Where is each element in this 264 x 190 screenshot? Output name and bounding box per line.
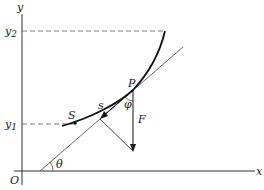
arc-length-label: s [98,99,104,112]
y2-tick-label: y2 [4,25,17,39]
phi-label: φ [124,98,132,111]
y1-tick-label: y1 [4,118,17,132]
curve [62,31,165,126]
x-axis-label: x [256,165,263,178]
point-p-label: P [127,77,136,90]
origin-label: O [10,174,19,187]
physics-diagram: y x O y2 y1 P S s F φ θ [0,0,264,190]
perpendicular-line [100,119,133,151]
point-s-label: S [68,109,76,122]
y-axis-label: y [16,1,24,14]
theta-angle-arc [50,162,53,171]
theta-label: θ [56,158,63,171]
force-label: F [137,113,146,126]
